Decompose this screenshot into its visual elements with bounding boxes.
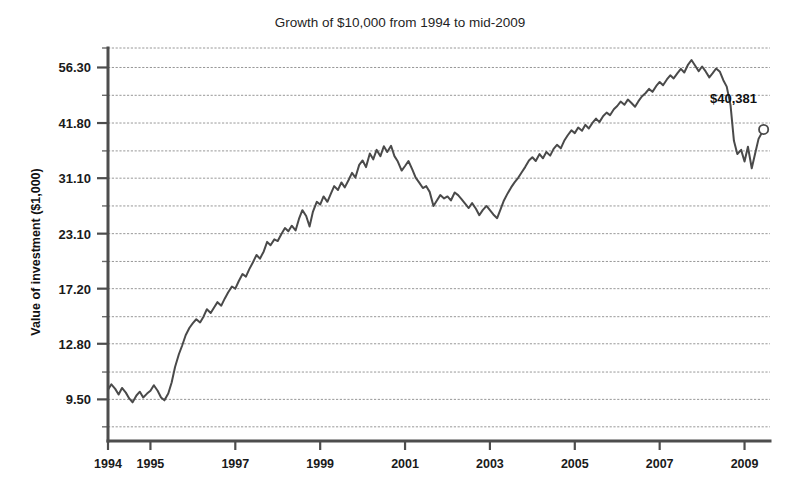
y-tick-label: 56.30	[58, 60, 91, 75]
x-tick-label: 2001	[391, 457, 419, 471]
x-tick-label: 1999	[306, 457, 334, 471]
y-tick-label: 9.50	[66, 392, 91, 407]
x-tick-label: 2007	[646, 457, 674, 471]
end-point-marker	[759, 125, 768, 134]
x-tick-label: 1994	[94, 457, 122, 471]
growth-line-chart: Growth of $10,000 from 1994 to mid-2009 …	[0, 0, 785, 500]
y-tick-label: 23.10	[58, 227, 91, 242]
y-tick-label: 41.80	[58, 116, 91, 131]
x-tick-label: 2003	[476, 457, 504, 471]
y-tick-label: 31.10	[58, 171, 91, 186]
x-tick-label: 2009	[731, 457, 759, 471]
y-tick-label: 12.80	[58, 337, 91, 352]
x-tick-label: 1995	[137, 457, 165, 471]
x-tick-label: 1997	[221, 457, 249, 471]
x-tick-label: 2005	[561, 457, 589, 471]
y-axis-title: Value of investment ($1,000)	[29, 168, 43, 335]
chart-title: Growth of $10,000 from 1994 to mid-2009	[275, 15, 526, 30]
chart-background	[0, 0, 785, 500]
y-tick-label: 17.20	[58, 282, 91, 297]
end-value-annotation: $40,381	[710, 91, 757, 106]
chart-container: Growth of $10,000 from 1994 to mid-2009 …	[0, 0, 785, 500]
